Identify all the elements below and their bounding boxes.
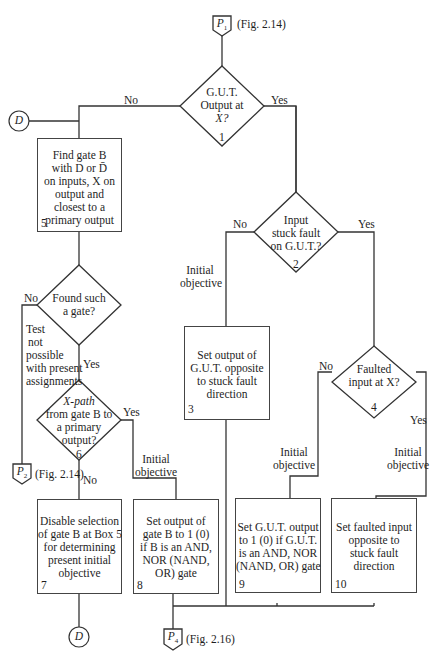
decision-line: Input — [256, 214, 336, 227]
decision-line: X-path — [39, 395, 119, 408]
box-line: (NAND, OR) gate — [236, 560, 320, 573]
decision-2-text: Input stuck fault on G.U.T.? — [256, 214, 336, 253]
decision-1-yes-label: Yes — [271, 94, 288, 107]
decision-line: a gate? — [39, 305, 119, 318]
decision-1-text: G.U.T. Output at X? — [182, 86, 262, 125]
decision-line: stuck fault — [256, 227, 336, 240]
box-line: with D or D̄ — [38, 162, 121, 175]
annotation-line: with present — [26, 362, 83, 375]
decision-found-no-label: No — [24, 292, 38, 305]
decision-2-no-label: No — [233, 218, 247, 231]
connector-d-bottom: D — [69, 630, 89, 642]
decision-4-number: 4 — [371, 401, 377, 414]
box-10-number: 10 — [335, 578, 347, 591]
initial-objective-label-10: Initial objective — [386, 446, 430, 472]
decision-1-number: 1 — [219, 131, 225, 144]
box-10-text: Set faulted input opposite to stuck faul… — [332, 521, 416, 573]
box-line: stuck fault — [332, 547, 416, 560]
annotation-line: Initial — [134, 453, 178, 466]
test-not-possible-note: Test not possible with present assignmen… — [26, 323, 83, 388]
process-box-7: Disable selection of gate B at Box 5 for… — [37, 499, 122, 594]
process-box-8: Set output of gate B to 1 (0) if B is an… — [133, 499, 219, 594]
box-3-text: Set output of G.U.T. opposite to stuck f… — [185, 349, 269, 401]
box-line: opposite to — [332, 534, 416, 547]
box-line: of gate B at Box 5 — [38, 528, 121, 541]
decision-2-yes-label: Yes — [358, 218, 375, 231]
decision-4-yes-label: Yes — [410, 414, 427, 427]
decision-line: Output at — [182, 99, 262, 112]
decision-4-no-label: No — [319, 360, 333, 373]
box-line: is an AND, NOR — [236, 547, 320, 560]
box-line: to stuck fault — [185, 375, 269, 388]
decision-line: input at X? — [334, 376, 414, 389]
connector-sub: 4 — [175, 637, 179, 645]
annotation-line: objective — [272, 459, 316, 472]
decision-line: a primary — [39, 421, 119, 434]
box-line: Set G.U.T. output — [236, 521, 320, 534]
box-line: direction — [332, 560, 416, 573]
offpage-connector-p4: P4 — [164, 630, 182, 645]
box-8-text: Set output of gate B to 1 (0) if B is an… — [134, 515, 218, 580]
box-line: objective — [38, 567, 121, 580]
offpage-connector-p1: P1 — [213, 17, 231, 32]
decision-found-yes-label: Yes — [83, 358, 100, 371]
box-3-number: 3 — [188, 403, 194, 416]
box-9-text: Set G.U.T. output to 1 (0) if G.U.T. is … — [236, 521, 320, 573]
box-line: closest to a — [38, 201, 121, 214]
box-line: direction — [185, 388, 269, 401]
box-5-number: 5 — [41, 217, 47, 230]
box-line: Disable selection — [38, 515, 121, 528]
box-5-text: Find gate B with D or D̄ on inputs, X on… — [38, 149, 121, 227]
box-line: primary output — [38, 214, 121, 227]
annotation-line: objective — [386, 459, 430, 472]
decision-6-yes-label: Yes — [123, 406, 140, 419]
box-line: to 1 (0) if G.U.T. — [236, 534, 320, 547]
annotation-line: objective — [134, 466, 178, 479]
annotation-line: Initial — [180, 264, 220, 277]
connector-d-top: D — [9, 114, 29, 126]
initial-objective-label-9: Initial objective — [272, 446, 316, 472]
box-7-text: Disable selection of gate B at Box 5 for… — [38, 515, 121, 580]
offpage-connector-p2: P2 — [13, 465, 31, 480]
box-line: Find gate B — [38, 149, 121, 162]
decision-6-number: 6 — [76, 448, 82, 461]
initial-objective-label-8: Initial objective — [134, 453, 178, 479]
box-line: on inputs, X on — [38, 175, 121, 188]
p2-figure-ref: (Fig. 2.14) — [35, 468, 84, 481]
decision-line: output? — [39, 434, 119, 447]
annotation-line: possible — [26, 349, 83, 362]
initial-objective-label-3: Initial objective — [180, 264, 220, 290]
box-line: Set output of — [185, 349, 269, 362]
annotation-line: Initial — [386, 446, 430, 459]
box-line: Set faulted input — [332, 521, 416, 534]
decision-4-text: Faulted input at X? — [334, 363, 414, 389]
box-line: for determining — [38, 541, 121, 554]
connector-sub: 1 — [224, 24, 228, 32]
box-7-number: 7 — [41, 579, 47, 592]
annotation-line: not — [26, 336, 83, 349]
box-line: output and — [38, 188, 121, 201]
decision-line: G.U.T. — [182, 86, 262, 99]
connector-label: P — [217, 17, 224, 29]
annotation-line: Initial — [272, 446, 316, 459]
decision-line: from gate B to — [39, 408, 119, 421]
box-line: OR) gate — [134, 567, 218, 580]
decision-line: Faulted — [334, 363, 414, 376]
box-line: NOR (NAND, — [134, 554, 218, 567]
connector-label: P — [168, 630, 175, 642]
process-box-5: Find gate B with D or D̄ on inputs, X on… — [37, 138, 122, 232]
decision-line: X? — [182, 112, 262, 125]
connector-sub: 2 — [24, 472, 28, 480]
decision-6-no-label: No — [83, 474, 97, 487]
process-box-3: Set output of G.U.T. opposite to stuck f… — [184, 326, 270, 420]
p1-figure-ref: (Fig. 2.14) — [237, 18, 286, 31]
decision-2-number: 2 — [293, 258, 299, 271]
box-line: if B is an AND, — [134, 541, 218, 554]
decision-line: on G.U.T.? — [256, 240, 336, 253]
p4-figure-ref: (Fig. 2.16) — [186, 633, 235, 646]
decision-1-no-label: No — [124, 94, 138, 107]
process-box-9: Set G.U.T. output to 1 (0) if G.U.T. is … — [235, 498, 321, 593]
annotation-line: Test — [26, 323, 83, 336]
connector-label: P — [17, 465, 24, 477]
box-8-number: 8 — [137, 579, 143, 592]
